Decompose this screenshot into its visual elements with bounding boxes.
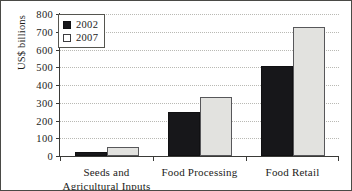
x-axis-category-label: Seeds andAgricultural Inputs [60,165,153,191]
outlined-square-icon [63,34,71,42]
legend-label-2002: 2002 [76,19,98,30]
axis-baseline [60,156,339,157]
x-axis-category-line: Agricultural Inputs [60,179,153,191]
legend-label-2007: 2007 [76,32,98,43]
legend-item: 2007 [63,31,98,44]
x-axis-separator-tick [246,156,247,161]
x-axis-category-line: Seeds and [60,165,153,179]
y-axis-tick-label: 600 [36,44,53,55]
y-axis-tick-label: 500 [36,62,53,73]
x-axis-separator-tick [153,156,154,161]
bar-2002-1[interactable] [75,152,107,156]
y-axis-tick-label: 100 [36,133,53,144]
x-axis-category-label: Food Retail [246,165,339,179]
x-axis-category-line: Food Processing [153,165,246,179]
y-axis-tick-label: 300 [36,97,53,108]
chart-legend: 2002 2007 [58,14,105,48]
bar-2007-2[interactable] [200,97,232,156]
x-axis-category-label: Food Processing [153,165,246,179]
y-axis-tick-label: 800 [36,9,53,20]
bar-chart-figure: US$ billions 0100200300400500600700800Se… [0,0,352,191]
bar-2002-2[interactable] [168,112,200,156]
bar-2007-1[interactable] [107,147,139,156]
y-axis-title: US$ billions [16,0,27,103]
bar-2007-3[interactable] [293,27,325,156]
y-axis-tick-label: 700 [36,26,53,37]
bar-group [246,14,339,156]
bar-2002-3[interactable] [261,66,293,156]
bar-group [153,14,246,156]
x-axis-separator-tick [338,156,339,161]
x-axis-separator-tick [60,156,61,161]
y-axis-tick-label: 0 [47,151,53,162]
legend-item: 2002 [63,18,98,31]
y-axis-tick-label: 400 [36,80,53,91]
filled-square-icon [63,21,71,29]
x-axis-category-line: Food Retail [246,165,339,179]
y-axis-tick-label: 200 [36,115,53,126]
